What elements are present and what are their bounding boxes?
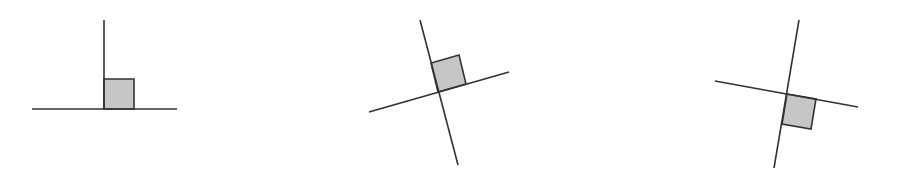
figure-1 — [32, 20, 177, 109]
right-angle-marker — [104, 79, 134, 109]
figure-2 — [369, 20, 509, 165]
perpendicular-lines-diagram — [0, 0, 897, 180]
figure-3 — [715, 20, 858, 168]
right-angle-marker — [782, 94, 816, 129]
